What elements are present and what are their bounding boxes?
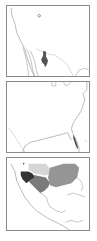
border-line — [9, 129, 25, 152]
locality-marker — [23, 163, 25, 165]
map-panel-west — [6, 5, 90, 77]
border-line — [36, 49, 73, 76]
map-panel-north-america — [6, 157, 90, 231]
range-patch-dark — [41, 51, 48, 68]
southeast-map-svg — [7, 82, 89, 152]
map-panel-southeast — [6, 81, 90, 153]
pacific-coastline — [11, 8, 34, 76]
range-strip-florida — [73, 135, 78, 150]
gulf-coastline — [23, 133, 72, 152]
atlantic-coastline — [71, 82, 87, 152]
gulf-coastline — [40, 193, 65, 212]
locality-marker — [38, 14, 41, 17]
range-medium-east — [48, 164, 79, 187]
west-map-svg — [7, 6, 89, 76]
gulf-coastline — [75, 68, 89, 76]
caribbean-islands — [67, 193, 85, 197]
north-america-map-svg — [7, 158, 89, 230]
